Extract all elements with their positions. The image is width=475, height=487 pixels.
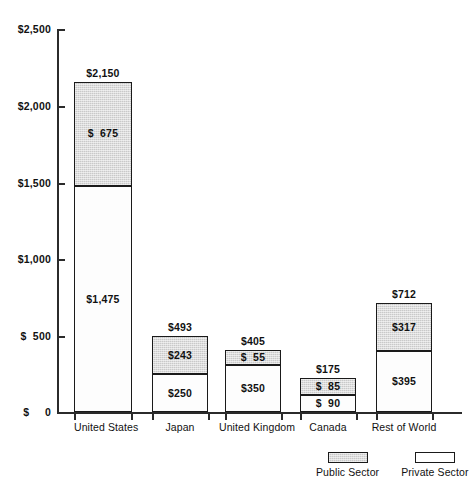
bar-united-kingdom: $405 $ 55 $350 <box>225 350 281 412</box>
bar-segment-public-canada: $ 85 <box>300 378 356 395</box>
bar-segment-public-united-kingdom: $ 55 <box>225 350 281 365</box>
legend-label-private-sector: Private Sector <box>401 466 468 478</box>
y-axis-tick-1000 <box>57 259 65 261</box>
bar-total-label-united-states: $2,150 <box>58 67 148 79</box>
x-axis-category-rest-of-world: Rest of World <box>370 421 438 433</box>
bar-segment-private-canada: $ 90 <box>300 395 356 412</box>
x-axis-tick-6 <box>300 414 302 420</box>
bar-total-label-rest-of-world: $712 <box>360 288 448 300</box>
bar-united-states: $2,150 $ 675 $1,475 <box>74 82 132 412</box>
bar-segment-value-private-japan: $250 <box>168 388 192 399</box>
bar-segment-value-private-united-states: $1,475 <box>86 294 119 305</box>
bar-japan: $493 $243 $250 <box>152 336 208 412</box>
bar-segment-private-japan: $250 <box>152 374 208 412</box>
bar-canada: $175 $ 85 $ 90 <box>300 378 356 412</box>
y-axis-label-500: $ 500 <box>0 330 51 342</box>
y-axis-tick-500 <box>57 336 65 338</box>
x-axis-tick-0 <box>74 414 76 420</box>
x-axis-tick-7 <box>356 414 358 420</box>
bar-segment-public-japan: $243 <box>152 336 208 373</box>
x-axis-tick-2 <box>152 414 154 420</box>
bar-segment-value-public-japan: $243 <box>168 350 192 361</box>
y-axis-tick-2000 <box>57 106 65 108</box>
x-axis-category-united-kingdom: United Kingdom <box>219 421 287 433</box>
x-axis-category-united-states: United States <box>74 421 132 433</box>
bar-rest-of-world: $712 $317 $395 <box>376 303 432 412</box>
y-axis-label-2000: $2,000 <box>0 100 51 112</box>
bar-total-label-japan: $493 <box>136 321 224 333</box>
bar-segment-private-united-kingdom: $350 <box>225 365 281 412</box>
x-axis-tick-3 <box>208 414 210 420</box>
stacked-bar-chart: $2,500 $2,000 $1,500 $1,000 $ 500 $ 0 $2… <box>0 0 475 487</box>
x-axis-line <box>57 412 462 414</box>
legend-item-private-sector: Private Sector <box>401 452 468 478</box>
bar-segment-value-public-canada: $ 85 <box>316 381 340 392</box>
y-axis-line <box>57 29 59 414</box>
legend-item-public-sector: Public Sector <box>316 452 379 478</box>
y-axis-label-1000: $1,000 <box>0 253 51 265</box>
x-axis-tick-9 <box>432 414 434 420</box>
x-axis-category-japan: Japan <box>152 421 208 433</box>
y-axis-tick-2500 <box>57 29 65 31</box>
bar-segment-public-rest-of-world: $317 <box>376 303 432 352</box>
legend-label-public-sector: Public Sector <box>316 466 379 478</box>
legend-swatch-private-sector <box>415 452 455 463</box>
x-axis-tick-8 <box>376 414 378 420</box>
y-axis-label-0: $ 0 <box>0 406 51 418</box>
bar-segment-value-public-united-states: $ 675 <box>88 128 118 139</box>
bar-segment-value-private-united-kingdom: $350 <box>241 383 265 394</box>
bar-segment-value-public-united-kingdom: $ 55 <box>241 352 265 363</box>
x-axis-tick-4 <box>225 414 227 420</box>
y-axis-label-2500: $2,500 <box>0 23 51 35</box>
bar-total-label-canada: $175 <box>284 363 372 375</box>
bar-segment-private-united-states: $1,475 <box>74 186 132 413</box>
x-axis-tick-1 <box>131 414 133 420</box>
bar-segment-private-rest-of-world: $395 <box>376 351 432 412</box>
bar-total-label-united-kingdom: $405 <box>209 335 297 347</box>
y-axis-label-1500: $1,500 <box>0 177 51 189</box>
bar-segment-value-private-canada: $ 90 <box>316 398 340 409</box>
bar-segment-public-united-states: $ 675 <box>74 82 132 186</box>
chart-legend: Public Sector Private Sector <box>316 452 469 478</box>
legend-swatch-public-sector <box>328 452 368 463</box>
x-axis-category-canada: Canada <box>300 421 356 433</box>
bar-segment-value-public-rest-of-world: $317 <box>392 322 416 333</box>
x-axis-tick-5 <box>281 414 283 420</box>
bar-segment-value-private-rest-of-world: $395 <box>392 376 416 387</box>
y-axis-tick-1500 <box>57 183 65 185</box>
